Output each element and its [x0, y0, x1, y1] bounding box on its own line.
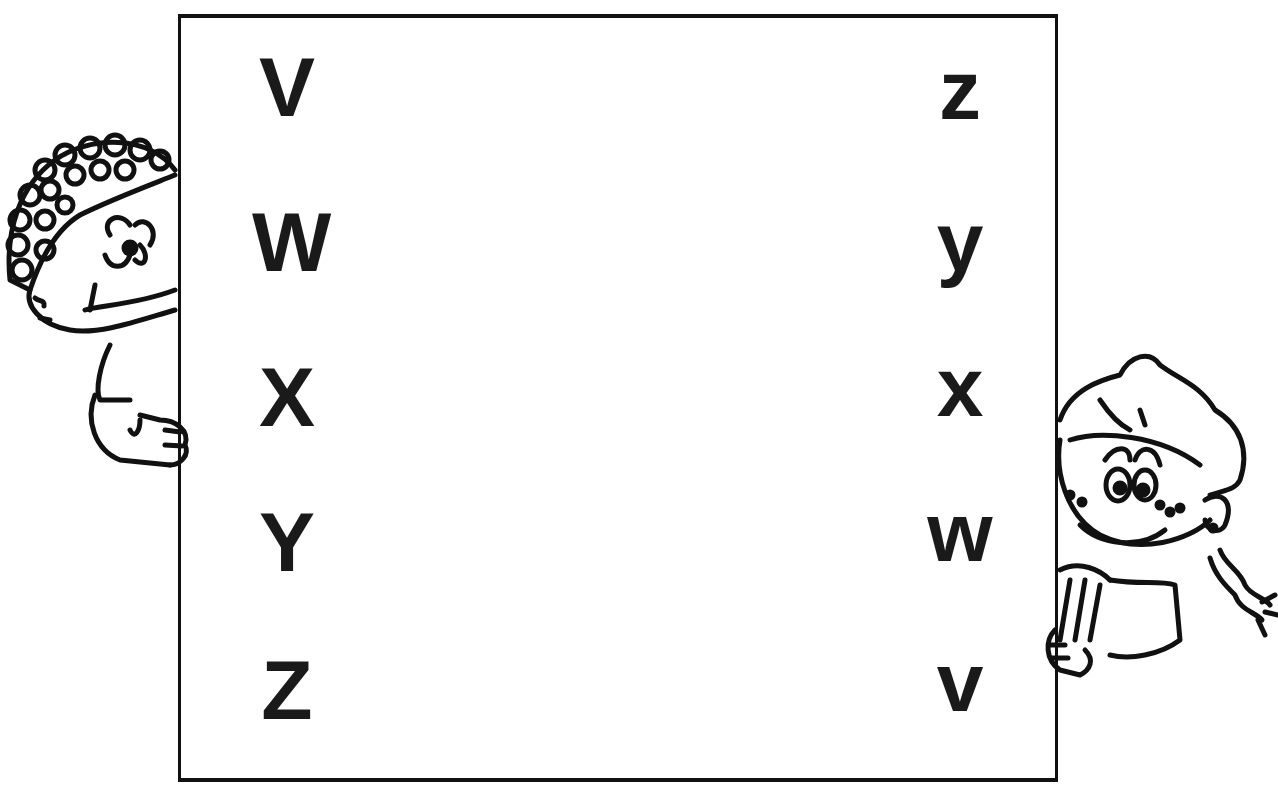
girl-peeking-icon — [1040, 340, 1278, 690]
uppercase-letter-w[interactable]: W — [252, 200, 322, 284]
uppercase-letter-z[interactable]: Z — [252, 648, 322, 732]
boy-peeking-icon — [0, 130, 200, 480]
lowercase-letter-y[interactable]: y — [925, 200, 995, 284]
uppercase-letter-y[interactable]: Y — [252, 500, 322, 584]
uppercase-letter-x[interactable]: X — [252, 355, 322, 439]
lowercase-letter-v[interactable]: v — [925, 640, 995, 724]
lowercase-letter-w[interactable]: w — [925, 490, 995, 574]
lowercase-letter-z[interactable]: z — [925, 48, 995, 132]
uppercase-letter-v[interactable]: V — [252, 45, 322, 129]
lowercase-letter-x[interactable]: x — [925, 345, 995, 429]
